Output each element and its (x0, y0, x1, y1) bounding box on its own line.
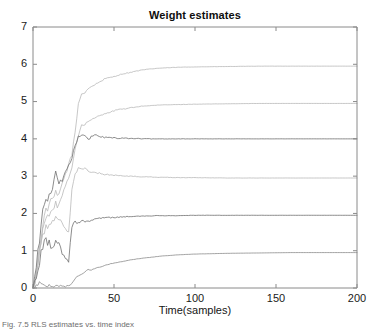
svg-text:0: 0 (30, 292, 36, 304)
series-line-w3 (33, 135, 357, 288)
series-line-w5 (33, 215, 357, 288)
series-line-w4 (33, 168, 357, 288)
svg-text:3: 3 (21, 169, 27, 181)
figure-container: Weight estimates 01234567 050100150200 T… (0, 0, 378, 330)
svg-text:0: 0 (21, 281, 27, 293)
svg-text:2: 2 (21, 206, 27, 218)
svg-text:150: 150 (267, 292, 285, 304)
figure-caption: Fig. 7.5 RLS estimates vs. time index (2, 320, 376, 330)
series-line-w6 (33, 253, 357, 288)
chart-plot-area: 01234567 050100150200 (0, 0, 378, 330)
svg-text:100: 100 (186, 292, 204, 304)
svg-text:200: 200 (348, 292, 366, 304)
series-line-w1 (33, 66, 357, 288)
svg-text:4: 4 (21, 132, 27, 144)
x-axis-title: Time(samples) (33, 304, 357, 316)
svg-text:50: 50 (108, 292, 120, 304)
svg-text:1: 1 (21, 244, 27, 256)
x-axis: 050100150200 (30, 27, 366, 304)
series-lines (33, 66, 357, 288)
svg-text:5: 5 (21, 94, 27, 106)
series-line-w2 (33, 103, 357, 288)
svg-text:6: 6 (21, 57, 27, 69)
svg-text:7: 7 (21, 20, 27, 32)
